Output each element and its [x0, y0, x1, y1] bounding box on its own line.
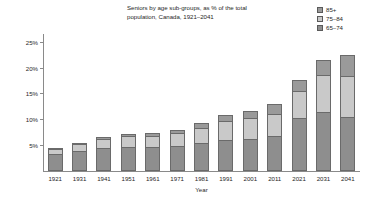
bar-segment[interactable] — [292, 91, 307, 118]
stacked-bar[interactable] — [267, 104, 282, 171]
bar-segment[interactable] — [292, 80, 307, 91]
bar-segment[interactable] — [316, 112, 331, 171]
x-axis-tick-label: 2031 — [311, 175, 335, 185]
stacked-bar[interactable] — [243, 111, 258, 171]
bar-segment[interactable] — [267, 104, 282, 113]
bar-slot — [287, 34, 311, 171]
legend-swatch-icon — [317, 16, 323, 22]
bar-segment[interactable] — [340, 117, 355, 171]
bar-segment[interactable] — [340, 55, 355, 76]
bar-slot — [165, 34, 189, 171]
x-axis-tick-label: 1971 — [165, 175, 189, 185]
x-axis-tick-label: 1921 — [43, 175, 67, 185]
stacked-bar[interactable] — [121, 134, 136, 171]
stacked-bar[interactable] — [96, 137, 111, 171]
x-axis-tick-label: 2021 — [287, 175, 311, 185]
bar-segment[interactable] — [218, 121, 233, 140]
bar-segment[interactable] — [194, 143, 209, 171]
bar-slot — [214, 34, 238, 171]
bar-segment[interactable] — [267, 136, 282, 171]
y-axis-tick-label: 20% — [26, 64, 38, 71]
bar-slot — [336, 34, 360, 171]
y-axis-tick-label: 15% — [26, 90, 38, 97]
bar-segment[interactable] — [243, 111, 258, 119]
bar-slot — [141, 34, 165, 171]
bar-segment[interactable] — [145, 136, 160, 147]
x-axis-tick-label: 1991 — [214, 175, 238, 185]
legend-swatch-icon — [317, 25, 323, 31]
bar-segment[interactable] — [267, 114, 282, 137]
bar-segment[interactable] — [96, 148, 111, 171]
legend-item: 75–84 — [317, 14, 343, 23]
bar-segment[interactable] — [292, 118, 307, 171]
x-axis-tick-label: 2001 — [238, 175, 262, 185]
legend-swatch-icon — [317, 7, 323, 13]
stacked-bar[interactable] — [340, 55, 355, 171]
stacked-bar[interactable] — [218, 115, 233, 171]
bar-segment[interactable] — [170, 146, 185, 171]
x-axis-tick-label: 2011 — [263, 175, 287, 185]
bar-slot — [43, 34, 67, 171]
stacked-bar[interactable] — [292, 80, 307, 171]
bar-slot — [238, 34, 262, 171]
chart-title: Seniors by age sub-groups, as % of the t… — [127, 4, 277, 21]
y-axis-tick-label: 5% — [29, 142, 38, 149]
x-axis-labels: 1921193119411951196119711981199120012011… — [43, 175, 360, 185]
x-axis-tick-label: 1981 — [189, 175, 213, 185]
bar-segment[interactable] — [96, 139, 111, 148]
stacked-bar[interactable] — [48, 148, 63, 171]
bar-slot — [92, 34, 116, 171]
stacked-bar[interactable] — [194, 123, 209, 171]
x-axis-tick-label: 1951 — [116, 175, 140, 185]
stacked-bar[interactable] — [72, 143, 87, 171]
bar-segment[interactable] — [72, 144, 87, 151]
legend-item: 85+ — [317, 5, 343, 14]
y-axis-tick-label: 10% — [26, 116, 38, 123]
x-axis-tick-label: 1931 — [67, 175, 91, 185]
x-axis-title: Year — [43, 186, 360, 193]
chart-page: Seniors by age sub-groups, as % of the t… — [0, 0, 370, 209]
bar-segment[interactable] — [340, 76, 355, 117]
bar-segment[interactable] — [194, 128, 209, 143]
bar-slot — [116, 34, 140, 171]
bar-segment[interactable] — [72, 151, 87, 171]
stacked-bar[interactable] — [170, 130, 185, 171]
legend-label: 85+ — [326, 6, 336, 13]
bar-group — [43, 34, 360, 171]
bar-segment[interactable] — [243, 139, 258, 171]
x-axis-tick-label: 1941 — [92, 175, 116, 185]
bar-slot — [189, 34, 213, 171]
legend-item: 65–74 — [317, 23, 343, 32]
legend-label: 75–84 — [326, 15, 343, 22]
bar-segment[interactable] — [170, 133, 185, 145]
legend-label: 65–74 — [326, 24, 343, 31]
bar-slot — [67, 34, 91, 171]
bar-segment[interactable] — [48, 154, 63, 171]
bar-segment[interactable] — [316, 75, 331, 112]
x-axis-tick-label: 2041 — [336, 175, 360, 185]
y-axis-tick-label: 25% — [26, 38, 38, 45]
stacked-bar[interactable] — [145, 133, 160, 171]
bar-segment[interactable] — [218, 140, 233, 171]
chart-legend: 85+75–8465–74 — [317, 5, 343, 33]
bar-segment[interactable] — [243, 118, 258, 139]
plot-area: 5%10%15%20%25% — [43, 34, 360, 172]
bar-segment[interactable] — [316, 60, 331, 75]
bar-segment[interactable] — [145, 147, 160, 171]
bar-slot — [263, 34, 287, 171]
bar-segment[interactable] — [121, 147, 136, 171]
x-axis-line — [43, 171, 360, 172]
bar-slot — [311, 34, 335, 171]
x-axis-tick-label: 1961 — [141, 175, 165, 185]
bar-segment[interactable] — [121, 136, 136, 147]
stacked-bar[interactable] — [316, 60, 331, 171]
